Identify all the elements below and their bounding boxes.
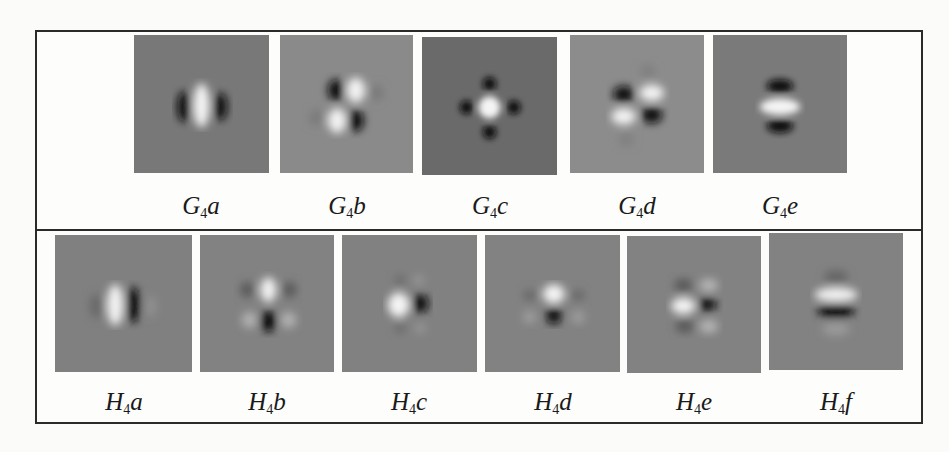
label-h4a: H4a [54, 388, 194, 418]
filter-image-h4e [627, 236, 761, 373]
filter-image-g4c [422, 37, 557, 175]
label-h4c: H4c [339, 388, 479, 418]
filter-image-h4b [200, 235, 334, 372]
row-divider [35, 229, 921, 231]
filter-image-h4f [769, 233, 903, 370]
filter-image-h4d [485, 235, 620, 372]
filter-image-g4a [134, 35, 269, 173]
label-g4a: G4a [131, 192, 271, 222]
label-h4d: H4d [483, 388, 623, 418]
filter-image-h4c [342, 235, 477, 372]
label-h4f: H4f [766, 388, 906, 418]
label-g4b: G4b [277, 192, 417, 222]
label-g4c: G4c [420, 192, 560, 222]
filter-image-g4b [280, 35, 413, 173]
label-h4b: H4b [197, 388, 337, 418]
label-h4e: H4e [624, 388, 764, 418]
label-g4d: G4d [567, 192, 707, 222]
filter-image-g4d [570, 35, 704, 173]
label-g4e: G4e [710, 192, 850, 222]
filter-image-h4a [55, 235, 192, 372]
bleed-through-text [420, 0, 949, 12]
filter-image-g4e [713, 35, 847, 173]
